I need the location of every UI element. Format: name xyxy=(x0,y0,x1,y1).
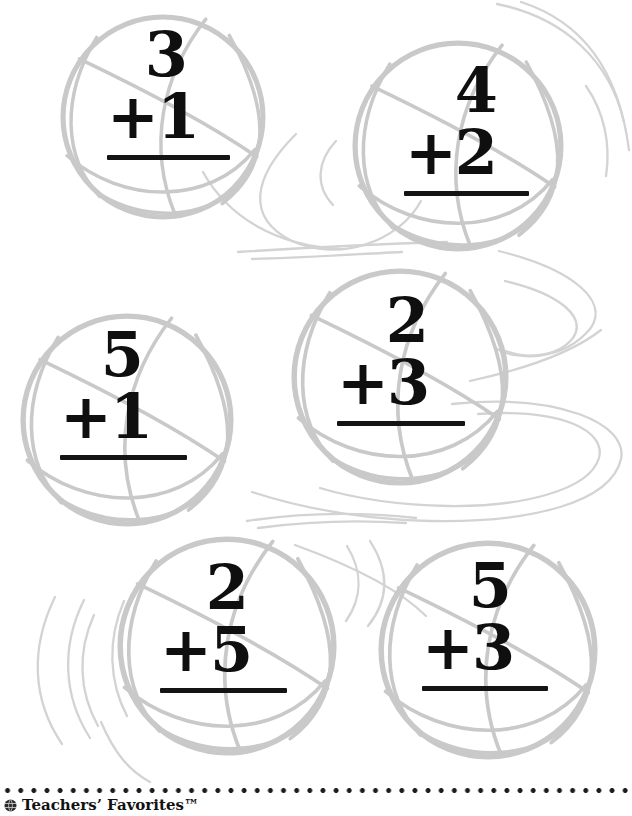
addition-problem-6: 5 +3 xyxy=(422,555,548,691)
footer-brand: Teachers’ Favorites™ xyxy=(4,797,199,813)
answer-blank xyxy=(404,191,529,196)
addend-top: 4 xyxy=(404,60,529,122)
addend-bottom: +5 xyxy=(160,619,287,681)
addend-bottom: +2 xyxy=(404,122,529,184)
addend-bottom: +1 xyxy=(107,86,230,148)
answer-blank xyxy=(107,155,230,160)
addend-bottom: +1 xyxy=(60,386,187,448)
addition-problem-2: 4 +2 xyxy=(404,60,529,196)
answer-blank xyxy=(160,688,287,693)
addend-top: 3 xyxy=(107,24,230,86)
answer-blank xyxy=(60,455,187,460)
answer-blank xyxy=(422,686,548,691)
addend-top: 2 xyxy=(337,290,465,352)
worksheet-page: 3 +1 4 +2 5 +1 2 +3 2 +5 5 +3 xyxy=(0,0,632,816)
addend-top: 2 xyxy=(160,557,287,619)
addend-bottom: +3 xyxy=(337,352,465,414)
brand-name: Teachers’ Favorites™ xyxy=(22,797,199,813)
addition-problem-5: 2 +5 xyxy=(160,557,287,693)
addend-top: 5 xyxy=(422,555,548,617)
addition-problem-4: 2 +3 xyxy=(337,290,465,426)
addition-problem-3: 5 +1 xyxy=(60,324,187,460)
answer-blank xyxy=(337,421,465,426)
addition-problem-1: 3 +1 xyxy=(107,24,230,160)
addend-top: 5 xyxy=(60,324,187,386)
footer-dotted-divider xyxy=(0,786,632,795)
brand-seal-icon xyxy=(4,799,17,812)
addend-bottom: +3 xyxy=(422,617,548,679)
